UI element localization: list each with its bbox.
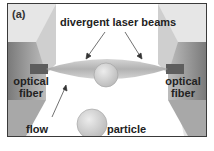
left-optical-fiber-label: optical fiber: [11, 75, 51, 99]
panel-label: (a): [12, 8, 25, 20]
flow-arrow: [52, 85, 67, 117]
figure-frame: (a) divergent laser beams optical fiber …: [7, 3, 207, 137]
figure-panel-a: (a) divergent laser beams optical fiber …: [0, 0, 214, 151]
right-fiber-label-line1: optical: [163, 75, 203, 87]
particle: [77, 109, 107, 136]
particle-label: particle: [107, 123, 146, 135]
left-optical-fiber: [8, 4, 56, 136]
left-fiber-label-line2: fiber: [11, 87, 51, 99]
particle-in-beam: [94, 63, 118, 87]
divergent-laser-beams-label: divergent laser beams: [60, 16, 176, 28]
beam-arrows: [86, 32, 142, 59]
flow-label: flow: [26, 123, 48, 135]
left-fiber-label-line1: optical: [11, 75, 51, 87]
right-fiber-label-line2: fiber: [163, 87, 203, 99]
right-optical-fiber-label: optical fiber: [163, 75, 203, 99]
